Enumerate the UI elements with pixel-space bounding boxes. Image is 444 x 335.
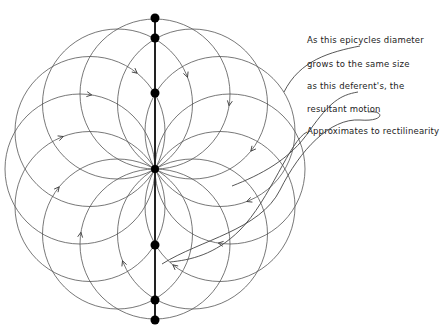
position-dot (151, 34, 160, 43)
position-dot (151, 14, 160, 23)
annotation-leader-line (170, 132, 307, 262)
annotation-line-2: grows to the same size (307, 59, 410, 69)
position-dot (151, 165, 159, 173)
epicycle-diagram (0, 0, 444, 335)
position-dot (151, 316, 160, 325)
annotation-line-5: Approximates to rectilinearity (307, 126, 439, 136)
position-dot (151, 89, 160, 98)
annotation-line-4: resultant motion (307, 104, 381, 114)
annotation-line-1: As this epicycles diameter (307, 35, 424, 45)
position-dot (151, 296, 160, 305)
position-dot (151, 241, 160, 250)
annotation-line-3: as this deferent's, the (307, 81, 404, 91)
